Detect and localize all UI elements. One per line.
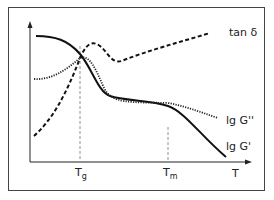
viscoelastic-diagram: tan δ lg G'' lg G' Tg Tm T <box>0 0 274 200</box>
tm-sub: m <box>170 172 178 181</box>
label-lg-g-prime: lg G' <box>226 140 251 153</box>
x-axis-arrow-icon <box>245 160 252 165</box>
label-tm: Tm <box>162 166 178 181</box>
series-lg-g-prime <box>36 36 226 157</box>
label-x-axis-t: T <box>231 167 239 180</box>
y-axis-arrow-icon <box>28 21 33 28</box>
series-lg-g-double-prime <box>34 57 218 118</box>
label-tan-delta: tan δ <box>229 26 258 39</box>
label-tg: Tg <box>74 166 87 181</box>
series-tan-delta <box>34 33 210 136</box>
frame <box>9 8 265 191</box>
label-lg-g-double-prime: lg G'' <box>226 114 254 127</box>
tg-sub: g <box>82 172 87 181</box>
